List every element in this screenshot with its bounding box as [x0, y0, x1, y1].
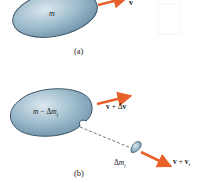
- velocity-arrow: [98, 0, 126, 5]
- caption-a: (a): [74, 46, 84, 56]
- velocity-label: v: [129, 0, 133, 7]
- velocity-label-b: v + Δv: [106, 102, 127, 111]
- panel-a: m v (a): [8, 0, 133, 56]
- caption-b: (b): [74, 168, 84, 178]
- fragment-velocity-arrow: [141, 152, 170, 166]
- fragment-velocity-label: v + vf: [173, 157, 190, 167]
- panel-b: m − Δmf v + Δv Δmf v + vf (b): [10, 89, 190, 178]
- fragment-mass: [131, 142, 141, 153]
- body-label-b: m − Δmf: [33, 107, 59, 117]
- body-label: m: [49, 9, 55, 18]
- body-mass-m: [8, 0, 101, 44]
- fragment-label: Δmf: [114, 158, 126, 168]
- ghost-figure: [158, 4, 180, 34]
- dashed-trajectory: [80, 127, 131, 148]
- rocket-mass-diagram: m v (a) m − Δmf v + Δv Δmf v + vf (b): [0, 0, 210, 183]
